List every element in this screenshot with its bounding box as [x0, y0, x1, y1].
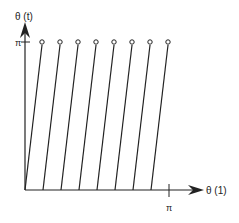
open-circle-endpoint-icon — [58, 40, 62, 44]
open-circle-endpoint-icon — [40, 40, 44, 44]
x-tick-label: π — [166, 203, 172, 213]
trajectory-line — [43, 45, 60, 190]
trajectory-line — [151, 45, 168, 190]
trajectory-lines — [25, 40, 170, 190]
trajectory-line — [25, 45, 42, 190]
open-circle-endpoint-icon — [166, 40, 170, 44]
trajectory-line — [79, 45, 96, 190]
y-axis-label: θ (t) — [15, 11, 33, 22]
trajectory-line — [61, 45, 78, 190]
open-circle-endpoint-icon — [112, 40, 116, 44]
open-circle-endpoint-icon — [76, 40, 80, 44]
phase-diagram: θ (t) θ (1) π π — [0, 0, 239, 223]
open-circle-endpoint-icon — [94, 40, 98, 44]
trajectory-line — [115, 45, 132, 190]
trajectory-line — [133, 45, 150, 190]
open-circle-endpoint-icon — [148, 40, 152, 44]
trajectory-line — [97, 45, 114, 190]
x-axis-label: θ (1) — [206, 185, 227, 196]
y-tick-label: π — [15, 38, 21, 48]
open-circle-endpoint-icon — [130, 40, 134, 44]
